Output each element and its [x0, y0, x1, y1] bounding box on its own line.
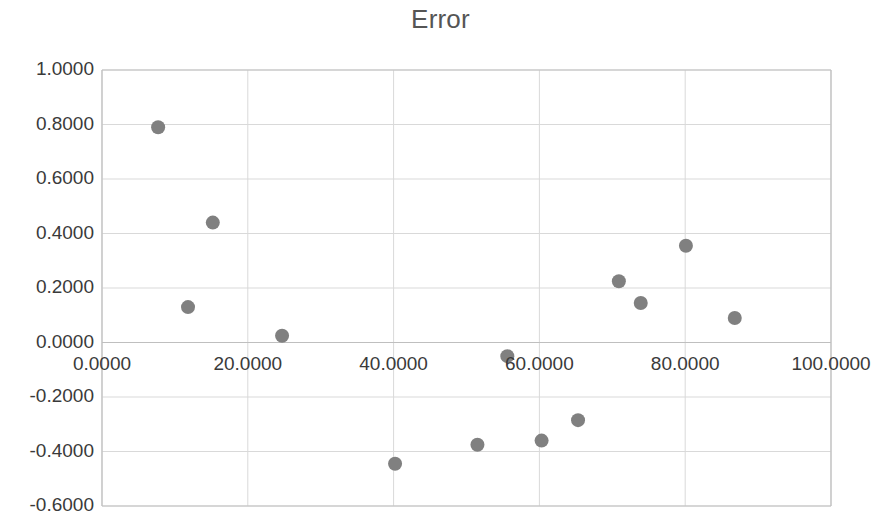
- scatter-point: [634, 296, 648, 310]
- data-points: [151, 120, 742, 471]
- y-axis-tick-label: 1.0000: [4, 58, 94, 80]
- y-axis-tick-label: 0.2000: [4, 276, 94, 298]
- scatter-point: [470, 438, 484, 452]
- y-axis-tick-label: 0.4000: [4, 222, 94, 244]
- scatter-plot-area: [0, 0, 881, 529]
- y-axis-tick-label: -0.6000: [4, 494, 94, 516]
- x-axis-tick-label: 20.0000: [183, 353, 313, 375]
- scatter-point: [728, 311, 742, 325]
- x-axis-tick-label: 80.0000: [620, 353, 750, 375]
- scatter-point: [206, 216, 220, 230]
- y-axis-tick-label: 0.6000: [4, 167, 94, 189]
- scatter-point: [535, 434, 549, 448]
- y-axis-tick-label: 0.8000: [4, 113, 94, 135]
- y-axis-tick-label: 0.0000: [4, 331, 94, 353]
- scatter-point: [612, 274, 626, 288]
- scatter-point: [679, 239, 693, 253]
- x-axis-tick-label: 100.0000: [766, 353, 881, 375]
- scatter-point: [151, 120, 165, 134]
- scatter-point: [275, 329, 289, 343]
- scatter-point: [388, 457, 402, 471]
- gridlines: [102, 70, 831, 506]
- y-axis-tick-label: -0.4000: [4, 440, 94, 462]
- y-axis-tick-label: -0.2000: [4, 385, 94, 407]
- scatter-point: [181, 300, 195, 314]
- x-axis-tick-label: 0.0000: [37, 353, 167, 375]
- x-axis-tick-label: 40.0000: [329, 353, 459, 375]
- chart-container: Error -0.6000-0.4000-0.20000.00000.20000…: [0, 0, 881, 529]
- x-axis-tick-label: 60.0000: [474, 353, 604, 375]
- scatter-point: [571, 413, 585, 427]
